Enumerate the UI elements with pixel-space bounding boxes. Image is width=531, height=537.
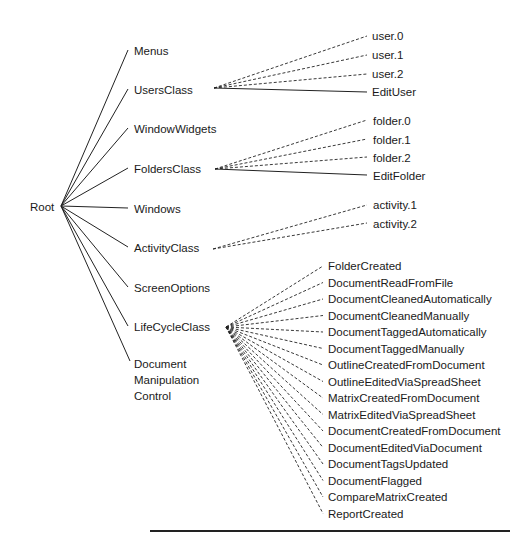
edge-root-to-folders-class	[61, 168, 128, 206]
node-matrix-edited-via-spreadsheet: MatrixEditedViaSpreadSheet	[328, 408, 475, 422]
node-edit-user: EditUser	[372, 85, 416, 99]
edge-root-to-activity-class	[61, 206, 128, 247]
edge-lifecycle-class-child	[226, 316, 323, 328]
node-compare-matrix-created: CompareMatrixCreated	[328, 490, 448, 504]
node-outline-created-from-document: OutlineCreatedFromDocument	[328, 358, 485, 372]
node-document-created-from-document: DocumentCreatedFromDocument	[328, 424, 501, 438]
edge-folders-class-child	[215, 169, 367, 175]
node-folder-created: FolderCreated	[328, 259, 402, 273]
node-document-tagged-manually: DocumentTaggedManually	[328, 342, 464, 356]
edge-folders-class-child	[215, 120, 367, 169]
edge-users-class-child	[214, 55, 367, 88]
node-document-cleaned-automatically: DocumentCleanedAutomatically	[328, 292, 492, 306]
node-folder-1: folder.1	[373, 133, 411, 147]
edge-lifecycle-class-child	[226, 327, 323, 514]
edge-lifecycle-class-child	[226, 327, 323, 365]
edge-root-to-menus	[61, 50, 128, 206]
edge-lifecycle-class-child	[226, 327, 323, 431]
node-activity-class: ActivityClass	[134, 241, 199, 255]
node-document-manipulation-control: Document Manipulation Control	[134, 356, 199, 404]
edge-root-to-screen-options	[61, 206, 128, 287]
node-folder-2: folder.2	[373, 151, 411, 165]
edge-layer	[0, 0, 531, 537]
node-activity-1: activity.1	[373, 198, 417, 212]
node-user-2: user.2	[372, 67, 403, 81]
edge-users-class-child	[214, 36, 367, 88]
node-document-tags-updated: DocumentTagsUpdated	[328, 457, 448, 471]
node-document-edited-via-document: DocumentEditedViaDocument	[328, 441, 482, 455]
edge-root-to-windows	[61, 206, 128, 208]
edge-root-to-window-widgets	[61, 128, 128, 206]
edge-lifecycle-class-child	[226, 327, 323, 332]
tree-diagram: Root Menus UsersClass WindowWidgets Fold…	[0, 0, 531, 537]
node-root: Root	[30, 200, 54, 214]
node-screen-options: ScreenOptions	[134, 281, 210, 295]
edge-lifecycle-class-child	[226, 327, 323, 415]
edge-root-to-users-class	[61, 89, 128, 206]
node-folders-class: FoldersClass	[134, 162, 201, 176]
node-document-tagged-automatically: DocumentTaggedAutomatically	[328, 325, 487, 339]
edge-lifecycle-class-child	[226, 327, 323, 481]
node-user-1: user.1	[372, 48, 403, 62]
node-windows: Windows	[134, 202, 181, 216]
edge-folders-class-child	[215, 157, 367, 169]
edge-folders-class-child	[215, 139, 367, 169]
node-document-read-from-file: DocumentReadFromFile	[328, 276, 453, 290]
node-menus: Menus	[134, 44, 169, 58]
horizontal-rule	[150, 530, 510, 532]
edge-users-class-child	[214, 74, 367, 88]
edge-root-to-lifecycle-class	[61, 206, 128, 326]
edge-lifecycle-class-child	[226, 327, 323, 464]
node-matrix-created-from-document: MatrixCreatedFromDocument	[328, 391, 479, 405]
edge-lifecycle-class-child	[226, 299, 323, 327]
node-user-0: user.0	[372, 29, 403, 43]
edge-lifecycle-class-child	[226, 327, 323, 497]
edge-root-to-document-manipulation-control	[61, 206, 130, 361]
node-edit-folder: EditFolder	[373, 169, 425, 183]
edge-lifecycle-class-child	[226, 266, 323, 327]
edge-lifecycle-class-child	[226, 283, 323, 328]
node-lifecycle-class: LifeCycleClass	[134, 320, 210, 334]
node-window-widgets: WindowWidgets	[134, 122, 216, 136]
node-activity-2: activity.2	[373, 217, 417, 231]
edge-users-class-child	[214, 88, 367, 92]
edge-lifecycle-class-child	[226, 327, 323, 349]
node-report-created: ReportCreated	[328, 507, 403, 521]
node-document-cleaned-manually: DocumentCleanedManually	[328, 309, 469, 323]
node-users-class: UsersClass	[134, 83, 193, 97]
node-document-flagged: DocumentFlagged	[328, 474, 422, 488]
node-outline-edited-via-spreadsheet: OutlineEditedViaSpreadSheet	[328, 375, 481, 389]
node-folder-0: folder.0	[373, 114, 411, 128]
